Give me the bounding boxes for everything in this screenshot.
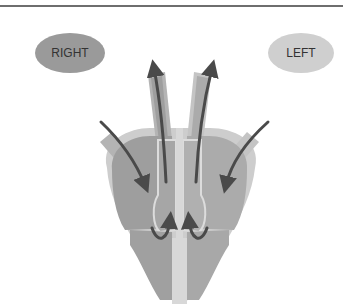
heart-diagram — [0, 0, 359, 304]
left-ventricle — [186, 230, 229, 300]
right-ventricle — [130, 230, 173, 300]
